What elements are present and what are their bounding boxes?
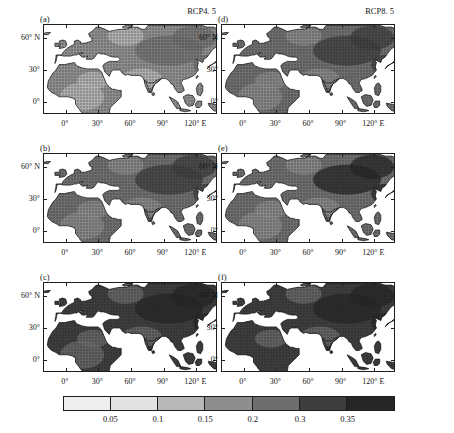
x-tick [98,239,99,242]
x-tick [309,110,310,113]
x-tick [244,239,245,242]
x-axis-label: 120° E [362,377,384,386]
y-axis-label: 60° N [193,32,218,41]
x-tick [66,239,67,242]
y-tick [222,360,225,361]
y-axis-label: 30° [15,323,40,332]
y-tick [44,328,47,329]
x-axis-label: 30° [92,119,103,128]
y-tick [391,296,394,297]
map-frame [43,153,217,243]
x-axis-label: 0° [239,119,246,128]
x-axis-label: 0° [239,248,246,257]
x-tick [276,154,277,157]
x-tick [276,283,277,286]
colorbar-segment [111,397,158,410]
x-tick [374,110,375,113]
y-axis-label: 60° N [15,32,40,41]
x-axis-label: 90° [335,248,346,257]
y-tick [222,296,225,297]
x-axis-label: 30° [92,248,103,257]
y-axis-label: 0° [193,355,218,364]
x-axis-label: 60° [124,248,135,257]
x-axis-label: 120° E [362,119,384,128]
x-tick [276,25,277,28]
x-tick [98,110,99,113]
y-axis-label: 0° [15,226,40,235]
x-tick [342,110,343,113]
y-axis-label: 30° [193,65,218,74]
x-tick [374,25,375,28]
x-axis-label: 0° [239,377,246,386]
colorbar-tick-label: 0.3 [295,414,306,424]
y-tick [44,167,47,168]
y-axis-label: 30° [193,323,218,332]
x-tick [98,25,99,28]
x-tick [131,239,132,242]
y-axis-label: 30° [15,65,40,74]
x-axis-label: 0° [61,248,68,257]
y-tick [222,70,225,71]
x-tick [66,368,67,371]
figure-canvas: RCP4. 5 RCP8. 5 (a) (b) (c) (d) (e) (f) … [0,0,454,433]
y-axis-label: 30° [193,194,218,203]
colorbar [63,396,395,411]
x-tick [131,283,132,286]
y-tick [44,231,47,232]
y-axis-label: 0° [193,97,218,106]
map-panel-e: 0°30°60°90°120° E0°30°60° N [193,147,407,263]
y-tick [391,38,394,39]
map-frame [43,282,217,372]
x-axis-label: 60° [124,119,135,128]
scenario-label-rcp45: RCP4. 5 [120,6,216,16]
x-tick [309,25,310,28]
y-tick [222,231,225,232]
y-axis-label: 60° N [15,161,40,170]
x-tick [342,154,343,157]
y-tick [391,360,394,361]
x-tick [164,110,165,113]
y-axis-label: 60° N [15,290,40,299]
y-tick [391,167,394,168]
x-axis-label: 30° [270,119,281,128]
y-tick [391,231,394,232]
x-tick [342,283,343,286]
x-axis-label: 90° [157,119,168,128]
x-axis-label: 0° [61,377,68,386]
x-axis-label: 90° [157,377,168,386]
x-tick [374,239,375,242]
y-axis-label: 0° [15,355,40,364]
y-tick [44,70,47,71]
x-tick [309,368,310,371]
x-tick [98,283,99,286]
map-frame [43,24,217,114]
y-tick [222,167,225,168]
x-tick [131,154,132,157]
x-axis-label: 30° [270,248,281,257]
x-tick [66,25,67,28]
x-tick [374,154,375,157]
x-tick [66,283,67,286]
x-tick [164,154,165,157]
y-axis-label: 30° [15,194,40,203]
colorbar-tick-label: 0.2 [247,414,258,424]
x-tick [342,368,343,371]
x-tick [342,25,343,28]
x-axis-label: 60° [302,119,313,128]
x-tick [276,110,277,113]
y-tick [222,102,225,103]
x-tick [98,154,99,157]
map-frame [221,282,395,372]
y-axis-label: 0° [15,97,40,106]
y-axis-label: 60° N [193,161,218,170]
colorbar-segment [253,397,300,410]
x-axis-label: 30° [270,377,281,386]
x-tick [244,25,245,28]
x-tick [374,283,375,286]
map-panel-f: 0°30°60°90°120° E0°30°60° N [193,276,407,392]
x-tick [131,110,132,113]
colorbar-tick-label: 0.1 [153,414,164,424]
x-tick [309,239,310,242]
map-frame [221,24,395,114]
x-axis-label: 120° E [362,248,384,257]
